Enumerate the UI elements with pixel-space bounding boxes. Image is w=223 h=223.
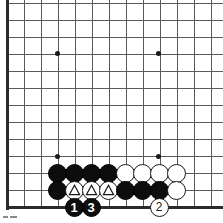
move-number-label-2: 2	[150, 198, 169, 217]
go-board-diagram: 132	[0, 0, 223, 223]
footer-tick-left	[3, 216, 8, 218]
footer-tick-right	[10, 216, 17, 218]
board-markers: 132	[0, 0, 223, 223]
footer-marks	[3, 214, 17, 220]
move-number-label-3: 3	[82, 198, 101, 217]
triangle-icon	[99, 181, 118, 200]
